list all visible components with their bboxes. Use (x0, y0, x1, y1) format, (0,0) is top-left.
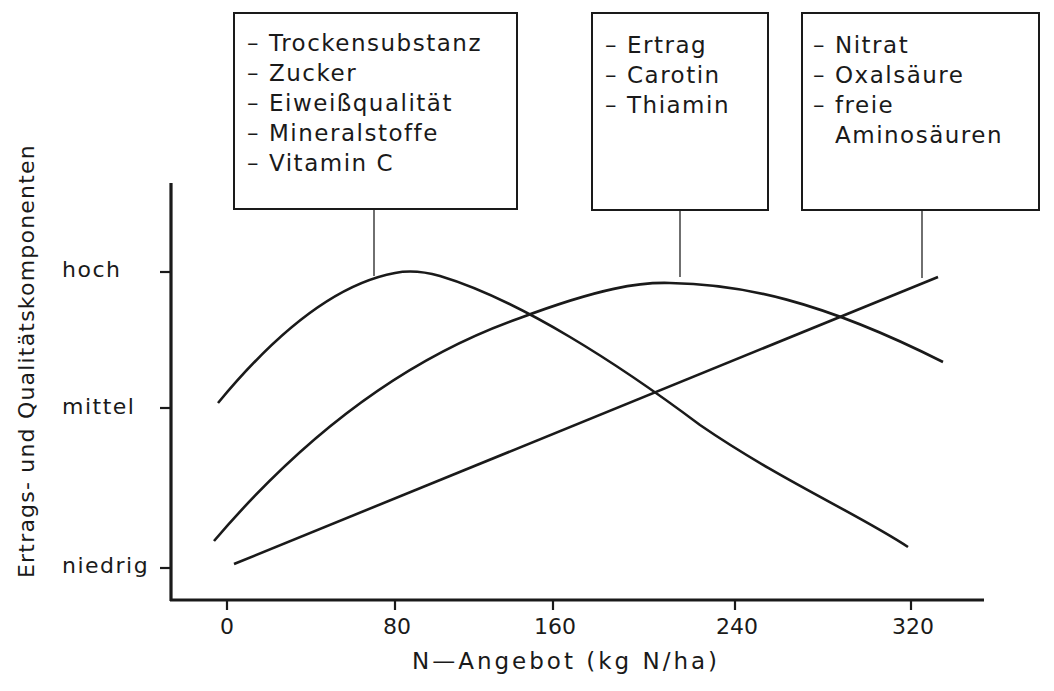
annotation-label: Nitrat (835, 32, 909, 58)
x-tick-label-240: 240 (716, 614, 758, 639)
annotation-label: Trockensubstanz (269, 30, 482, 56)
dash-glyph: – (247, 88, 269, 118)
annotation-label: Oxalsäure (835, 62, 964, 88)
annotation-item: –Ertrag (605, 30, 767, 60)
x-tick-label-0: 0 (220, 614, 234, 639)
annotation-label: Ertrag (627, 32, 707, 58)
dash-glyph: – (813, 90, 835, 120)
dash-glyph: – (605, 90, 627, 120)
annotation-label: freie (835, 92, 894, 118)
y-axis-title: Ertrags- und Qualitätskomponenten (14, 144, 39, 578)
annotation-item: –Trockensubstanz (247, 28, 516, 58)
chart: –Trockensubstanz –Zucker –Eiweißqualität… (0, 0, 1054, 691)
annotation-item: –Nitrat (813, 30, 1038, 60)
dash-glyph: – (247, 118, 269, 148)
dash-glyph: – (813, 60, 835, 90)
x-axis-title: N—Angebot (kg N/ha) (412, 648, 720, 674)
curve-trockensubstanz (218, 272, 908, 547)
dash-glyph: – (247, 148, 269, 178)
annotation-label: Carotin (627, 62, 721, 88)
curve-nitrat (234, 277, 938, 564)
annotation-item: –Carotin (605, 60, 767, 90)
annotation-item: –Vitamin C (247, 148, 516, 178)
dash-glyph: – (247, 58, 269, 88)
annotation-item: –Thiamin (605, 90, 767, 120)
annotation-label: Mineralstoffe (269, 120, 439, 146)
annotation-label: Thiamin (627, 92, 730, 118)
annotation-label: Eiweißqualität (269, 90, 453, 116)
annotation-box-nitrate: –Nitrat –Oxalsäure –freie Aminosäuren (801, 12, 1040, 211)
curve-ertrag (214, 283, 943, 541)
dash-glyph: – (605, 30, 627, 60)
x-tick-label-80: 80 (383, 614, 411, 639)
y-tick-label-niedrig: niedrig (62, 553, 149, 578)
annotation-item: –Mineralstoffe (247, 118, 516, 148)
annotation-item: –Zucker (247, 58, 516, 88)
y-tick-label-mittel: mittel (62, 394, 135, 419)
x-tick-label-320: 320 (892, 614, 934, 639)
y-tick-label-hoch: hoch (62, 257, 121, 282)
annotation-box-quality: –Trockensubstanz –Zucker –Eiweißqualität… (233, 12, 518, 210)
annotation-item: –Oxalsäure (813, 60, 1038, 90)
annotation-label: Aminosäuren (835, 122, 1003, 148)
annotation-item: Aminosäuren (813, 120, 1038, 150)
annotation-item: –Eiweißqualität (247, 88, 516, 118)
dash-glyph: – (605, 60, 627, 90)
dash-glyph: – (247, 28, 269, 58)
x-tick-label-160: 160 (534, 614, 576, 639)
annotation-item: –freie (813, 90, 1038, 120)
annotation-label: Zucker (269, 60, 357, 86)
annotation-box-yield: –Ertrag –Carotin –Thiamin (591, 12, 769, 211)
annotation-label: Vitamin C (269, 150, 394, 176)
dash-glyph: – (813, 30, 835, 60)
